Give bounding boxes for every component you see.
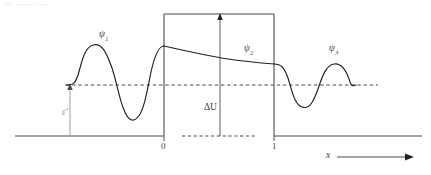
potential-barrier-figure: — —— — (0, 0, 431, 175)
axis-tick-marks (164, 136, 274, 141)
x-axis-arrow (337, 153, 414, 160)
figure-canvas (0, 0, 431, 175)
label-psi-3: ψ3 (329, 44, 338, 55)
epsilon-measure-arrow (67, 83, 72, 136)
wavefunction-psi3-curve (274, 64, 356, 108)
wavefunction-psi1-curve (66, 45, 164, 121)
label-psi-2: ψ2 (244, 44, 253, 55)
label-psi-1: ψ1 (99, 30, 108, 41)
label-epsilon-prime: ε' (62, 108, 68, 118)
potential-barrier (164, 14, 274, 136)
delta-u-measure-arrow (217, 13, 222, 136)
axis-tick-label-1: 1 (272, 142, 277, 151)
wavefunction-psi2-curve (164, 46, 274, 64)
label-x-axis: x (326, 151, 330, 161)
axis-tick-label-0: 0 (161, 142, 166, 151)
label-delta-u: ΔU (204, 103, 217, 113)
